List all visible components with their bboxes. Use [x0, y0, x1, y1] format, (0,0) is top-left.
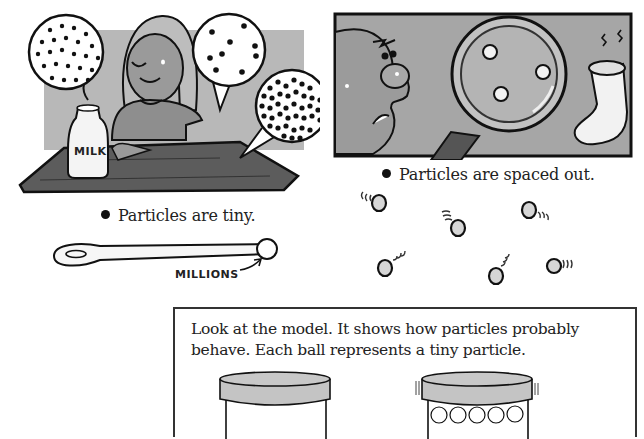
particle — [522, 202, 536, 218]
particle — [451, 220, 465, 236]
thought-bubble-sparse — [193, 14, 265, 86]
thought-bubble-medium — [29, 15, 103, 89]
empty-container — [220, 372, 330, 439]
caption-particles-spaced-out: Particles are spaced out. — [382, 165, 595, 184]
spoon-illustration: MILLIONS — [40, 230, 300, 290]
ball — [450, 407, 466, 423]
drop-circle — [257, 239, 277, 259]
caption-particles-tiny: Particles are tiny. — [101, 206, 255, 225]
milk-scene-illustration: MILK — [0, 0, 320, 200]
ball — [507, 406, 523, 422]
motion-lines — [362, 192, 573, 268]
caption-text: Particles are spaced out. — [399, 165, 595, 184]
model-description: Look at the model. It shows how particle… — [191, 319, 621, 361]
milk-label: MILK — [74, 145, 107, 158]
particle — [372, 195, 386, 211]
particle — [547, 259, 561, 273]
smell-scene-illustration — [333, 12, 633, 160]
arrow-icon — [240, 260, 260, 270]
moving-particles-illustration — [355, 190, 595, 290]
ball — [431, 407, 447, 423]
ball — [488, 407, 504, 423]
bullet-icon — [382, 169, 391, 178]
millions-label: MILLIONS — [175, 268, 239, 281]
container-lid — [220, 372, 330, 386]
container-with-balls — [416, 372, 538, 439]
model-box: Look at the model. It shows how particle… — [173, 307, 637, 437]
container-lid — [422, 372, 532, 386]
girl-face — [127, 34, 183, 102]
particle — [489, 268, 503, 284]
ball — [469, 407, 485, 423]
bullet-icon — [101, 210, 110, 219]
particle — [378, 260, 392, 276]
caption-text: Particles are tiny. — [118, 206, 255, 225]
model-containers — [175, 369, 635, 439]
